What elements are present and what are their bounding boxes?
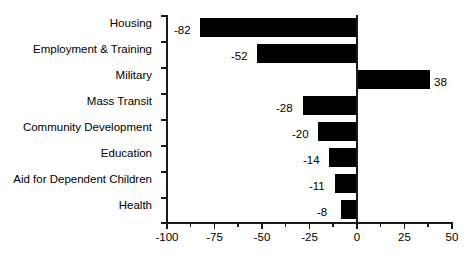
bar-community-development <box>318 122 356 141</box>
x-axis-tick-label: 0 <box>354 231 360 244</box>
bar-employment-training <box>257 44 356 63</box>
x-axis-tick-label: -50 <box>254 231 271 244</box>
x-axis-tick-label: 25 <box>398 231 411 244</box>
x-axis-tick-minor <box>285 223 287 227</box>
bar-education <box>329 148 356 167</box>
x-axis-tick-minor <box>427 223 429 227</box>
x-axis-tick-major <box>309 223 311 229</box>
x-axis-tick-minor <box>190 223 192 227</box>
bar-value-mass-transit: -28 <box>276 102 293 115</box>
bar-military <box>358 70 430 89</box>
x-axis-tick-label: -100 <box>155 231 178 244</box>
x-axis-tick-major <box>166 223 168 229</box>
bar-value-health: -8 <box>317 206 327 219</box>
x-axis-tick-label: 50 <box>446 231 459 244</box>
bar-value-employment-training: -52 <box>231 50 248 63</box>
bar-mass-transit <box>303 96 356 115</box>
bar-chart: Housing Employment & Training Military M… <box>0 0 468 266</box>
bar-aid-for-dependent-children <box>335 174 356 193</box>
x-axis-tick-major <box>404 223 406 229</box>
bar-housing <box>200 18 356 37</box>
bar-value-aid-for-dependent-children: -11 <box>309 180 325 193</box>
bar-value-military: 38 <box>434 76 447 89</box>
zero-reference-line <box>356 15 358 223</box>
bar-health <box>341 200 356 219</box>
x-axis-tick-minor <box>380 223 382 227</box>
x-axis-tick-major <box>261 223 263 229</box>
x-axis-tick-major <box>451 223 453 229</box>
bar-value-community-development: -20 <box>292 128 309 141</box>
bar-value-education: -14 <box>303 154 320 167</box>
x-axis-tick-major <box>356 223 358 229</box>
x-axis-tick-label: -75 <box>206 231 223 244</box>
x-axis-tick-major <box>214 223 216 229</box>
x-axis-tick-minor <box>237 223 239 227</box>
plot-area: -82 -52 38 -28 -20 -14 -11 -8 <box>0 0 468 266</box>
bar-value-housing: -82 <box>174 24 191 37</box>
x-axis-tick-label: -25 <box>301 231 318 244</box>
x-axis-tick-minor <box>332 223 334 227</box>
